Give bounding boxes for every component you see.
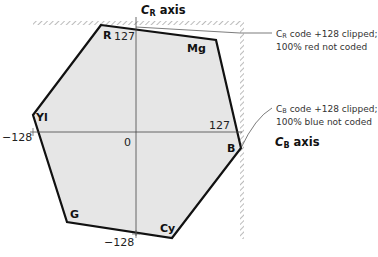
vertex-label-b: B [227,143,235,154]
cb-leader-line [241,108,272,148]
cr-note-line2: 100% red not coded [276,42,378,53]
cr-clip-annotation: CR code +128 clipped; 100% red not coded [276,29,378,53]
right-clip-hatch [240,21,244,239]
cb-clip-annotation: CB code +128 clipped; 100% blue not code… [276,104,377,128]
cb-note-line2: 100% blue not coded [276,117,377,128]
cb-note-line1: code +128 clipped; [287,104,378,114]
tick-cr-min: −128 [104,237,134,248]
top-clip-hatch [33,21,241,25]
vertex-label-mg: Mg [187,43,206,54]
tick-cr-max: 127 [114,31,135,42]
vertex-label-g: G [70,209,79,220]
tick-cb-min: −128 [2,132,32,143]
cb-axis-suffix: axis [290,135,320,149]
cr-axis-title: CR axis [141,5,186,18]
cr-axis-suffix: axis [156,3,186,17]
vertex-label-r: R [103,30,111,41]
cr-note-line1: code +128 clipped; [287,29,378,39]
vertex-label-yl: Yl [36,112,48,123]
cb-axis-title: CB axis [275,137,320,150]
tick-origin: 0 [124,137,131,148]
vertex-label-cy: Cy [160,223,175,234]
tick-cb-max: 127 [209,120,230,131]
